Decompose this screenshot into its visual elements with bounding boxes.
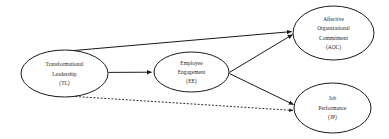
node-affective-organizational-commitment[interactable]: Affective Organizational Commitment (AOC… — [293, 6, 374, 60]
jp-label-line1: Job — [329, 95, 337, 101]
aoc-label-line4: (AOC) — [326, 44, 341, 51]
aoc-label-line1: Affective — [323, 16, 344, 22]
edge-tl-to-jp — [58, 95, 294, 110]
conceptual-model-diagram: Transformational Leadership (TL) Employe… — [0, 0, 389, 139]
aoc-ellipse[interactable] — [293, 6, 374, 60]
node-job-performance[interactable]: Job Performance (JP) — [294, 83, 371, 133]
aoc-label-line3: Commitment — [319, 35, 348, 41]
ee-label-line2: Engagement — [178, 69, 206, 75]
diagram-canvas: Transformational Leadership (TL) Employe… — [0, 0, 389, 139]
node-employee-engagement[interactable]: Employee Engagement (EE) — [154, 52, 229, 92]
edge-ee-to-aoc — [230, 35, 293, 73]
edge-ee-to-jp — [230, 74, 294, 105]
ee-label-line3: (EE) — [186, 78, 197, 85]
tl-label-line1: Transformational — [45, 61, 83, 67]
edge-tl-to-aoc — [48, 32, 292, 53]
ee-label-line1: Employee — [180, 60, 203, 66]
jp-label-line2: Performance — [318, 105, 347, 111]
aoc-label-line2: Organizational — [317, 25, 350, 31]
tl-label-line3: (TL) — [59, 80, 70, 87]
tl-label-line2: Leadership — [52, 71, 77, 77]
node-transformational-leadership[interactable]: Transformational Leadership (TL) — [21, 50, 108, 97]
jp-label-line3: (JP) — [328, 114, 337, 121]
